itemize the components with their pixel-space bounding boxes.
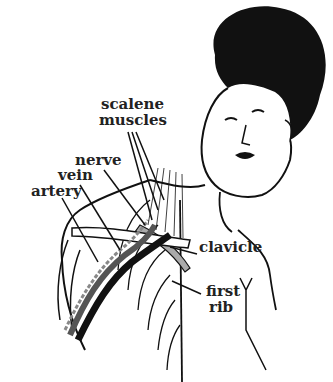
scalene-leader-3 [136,132,164,200]
nose [242,125,250,145]
label-scalene-line1: scalene [101,97,164,112]
first-rib [135,225,190,272]
mouth [235,152,255,159]
nerve-leader [104,170,145,225]
right-neck [220,192,233,232]
anatomy-diagram: scalene muscles nerve vein artery clavic… [0,0,333,382]
label-clavicle: clavicle [199,240,262,255]
label-scalene-line2: muscles [99,113,167,128]
first-rib-leader [172,281,201,294]
hair [213,6,325,140]
label-first-rib-line1: first [206,284,240,299]
label-artery: artery [31,184,82,199]
eye-right [252,110,264,112]
rib-cage [118,200,182,382]
scalene-leader-2 [132,132,158,210]
clavicle [72,227,190,248]
face-outline [202,88,292,197]
label-first-rib-line2: rib [209,300,233,315]
label-vein: vein [58,168,93,183]
chest-mark [240,278,266,370]
eye-left [225,118,237,120]
